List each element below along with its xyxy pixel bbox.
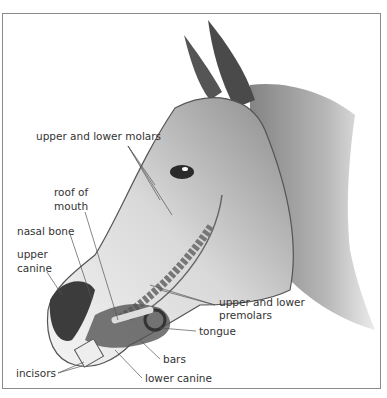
eye <box>170 165 194 179</box>
label-molars: upper and lower molars <box>36 130 161 143</box>
label-nasal-bone: nasal bone <box>17 225 74 238</box>
label-lower-canine: lower canine <box>145 372 212 385</box>
label-bars: bars <box>163 353 186 366</box>
label-roof-of-mouth-1: roof of <box>54 186 88 199</box>
label-roof-of-mouth-2: mouth <box>54 200 88 213</box>
label-tongue: tongue <box>199 325 236 338</box>
label-upper-canine-2: canine <box>17 262 52 275</box>
label-premolars-1: upper and lower <box>219 296 305 309</box>
horse-head-illustration <box>0 0 387 398</box>
label-incisors: incisors <box>16 367 56 380</box>
label-upper-canine-1: upper <box>17 248 48 261</box>
label-premolars-2: premolars <box>219 309 272 322</box>
